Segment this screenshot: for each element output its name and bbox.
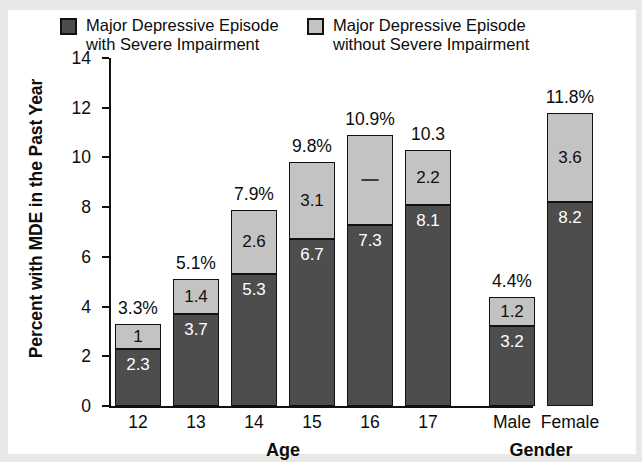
bar-value-severe-Female: 8.2: [558, 209, 582, 226]
bar-value-severe-16: 7.3: [358, 232, 382, 249]
bar-value-severe-12: 2.3: [126, 356, 150, 373]
bar-total-label-15: 9.8%: [257, 136, 367, 157]
x-tick-label-Female: Female: [525, 412, 615, 433]
bar-value-severe-14: 5.3: [242, 281, 266, 298]
bar-segment-severe-14: 5.3: [231, 274, 277, 406]
bar-value-nonsevere-12: 1: [133, 328, 142, 345]
y-tick-10: [102, 156, 109, 158]
bar-segment-severe-15: 6.7: [289, 239, 335, 406]
bar-value-severe-13: 3.7: [184, 321, 208, 338]
y-tick-label-0: 0: [57, 396, 91, 417]
bar-Female: 8.23.6: [547, 113, 593, 406]
bar-segment-nonsevere-Male: 1.2: [489, 297, 535, 327]
y-tick-2: [102, 355, 109, 357]
bar-segment-nonsevere-17: 2.2: [405, 150, 451, 205]
y-tick-label-14: 14: [57, 48, 91, 69]
bar-total-label-12: 3.3%: [83, 298, 193, 319]
plot-area: 02468101214 2.313.71.45.32.66.73.17.3-8.…: [109, 50, 533, 408]
bar-segment-nonsevere-12: 1: [115, 324, 161, 349]
bar-16: 7.3-: [347, 135, 393, 406]
y-tick-label-10: 10: [57, 147, 91, 168]
y-tick-label-6: 6: [57, 247, 91, 268]
x-tick-label-17: 17: [383, 412, 473, 433]
bar-value-severe-17: 8.1: [416, 212, 440, 229]
y-tick-label-2: 2: [57, 346, 91, 367]
bar-total-label-14: 7.9%: [199, 184, 309, 205]
chart-page: Percent with MDE in the Past Year Major …: [0, 0, 642, 462]
bar-value-nonsevere-Female: 3.6: [558, 149, 582, 166]
group-label-gender: Gender: [441, 440, 641, 461]
bar-total-label-Female: 11.8%: [515, 87, 625, 108]
y-tick-label-8: 8: [57, 197, 91, 218]
y-tick-14: [102, 57, 109, 59]
bar-value-severe-15: 6.7: [300, 246, 324, 263]
bar-total-label-13: 5.1%: [141, 253, 251, 274]
bar-12: 2.31: [115, 324, 161, 406]
x-axis-line: [109, 406, 533, 408]
group-label-age: Age: [183, 440, 383, 461]
y-tick-12: [102, 107, 109, 109]
bar-segment-severe-Male: 3.2: [489, 326, 535, 406]
bar-segment-severe-Female: 8.2: [547, 202, 593, 406]
bar-value-nonsevere-14: 2.6: [242, 233, 266, 250]
y-tick-0: [102, 405, 109, 407]
y-axis-title: Percent with MDE in the Past Year: [26, 49, 47, 389]
y-tick-8: [102, 206, 109, 208]
bar-segment-severe-13: 3.7: [173, 314, 219, 406]
bar-17: 8.12.2: [405, 150, 451, 406]
bar-total-label-17: 10.3: [373, 124, 483, 145]
bar-segment-nonsevere-Female: 3.6: [547, 113, 593, 202]
bar-value-severe-Male: 3.2: [500, 333, 524, 350]
chart-card: Percent with MDE in the Past Year Major …: [8, 10, 636, 454]
bar-segment-severe-12: 2.3: [115, 349, 161, 406]
bar-14: 5.32.6: [231, 210, 277, 406]
bar-segment-severe-17: 8.1: [405, 205, 451, 406]
y-tick-label-12: 12: [57, 98, 91, 119]
bar-Male: 3.21.2: [489, 297, 535, 406]
y-axis-line: [109, 58, 111, 408]
bar-value-nonsevere-16: -: [367, 171, 373, 188]
bar-value-nonsevere-Male: 1.2: [500, 303, 524, 320]
y-tick-6: [102, 256, 109, 258]
bar-total-label-Male: 4.4%: [457, 271, 567, 292]
bar-value-nonsevere-17: 2.2: [416, 169, 440, 186]
legend-swatch-dark-icon: [60, 18, 77, 35]
legend-swatch-light-icon: [307, 18, 324, 35]
bar-segment-severe-16: 7.3: [347, 225, 393, 406]
